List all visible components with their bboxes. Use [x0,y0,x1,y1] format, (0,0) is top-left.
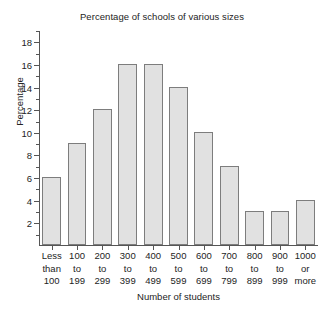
x-tick-label-line: 200 [90,250,115,263]
x-tick-label-line: 499 [140,275,165,288]
bar [296,200,315,245]
x-tick-label-line: to [217,263,242,276]
x-tick-label: 500to599 [166,250,191,288]
y-tick-label: 6 [27,173,32,184]
x-tick-label: 1000ormore [293,250,318,288]
x-tick-label-line: 700 [217,250,242,263]
x-tick-label-line: 1000 [293,250,318,263]
x-tick-label-line: 699 [191,275,216,288]
x-tick-label-line: to [242,263,267,276]
y-tick-label: 4 [27,195,32,206]
x-tick-label: 200to299 [90,250,115,288]
x-tick-label-line: Less [39,250,64,263]
x-tick-label-line: more [293,275,318,288]
x-tick-label-line: 199 [64,275,89,288]
y-tick-label: 18 [21,37,32,48]
x-tick-label-line: to [115,263,140,276]
x-tick-label-line: 100 [64,250,89,263]
x-tick-label-line: 500 [166,250,191,263]
x-tick-label: 800to899 [242,250,267,288]
x-tick-label: 400to499 [140,250,165,288]
bar [169,87,188,245]
x-tick-label-line: to [191,263,216,276]
x-tick-label-line: to [166,263,191,276]
x-tick-label-line: 399 [115,275,140,288]
x-tick-label-line: 800 [242,250,267,263]
plot-area: 24681012141618 [39,31,318,246]
bar [220,166,239,245]
x-tick-label-line: 600 [191,250,216,263]
x-tick-label-line: 899 [242,275,267,288]
x-axis-title: Number of students [39,291,318,302]
bars-layer [39,31,318,246]
bar [118,64,137,245]
x-tick-label-line: 300 [115,250,140,263]
x-tick-label-line: 599 [166,275,191,288]
y-tick-label: 12 [21,105,32,116]
x-axis-tick-labels: Lessthan100100to199200to299300to399400to… [39,250,318,292]
x-tick-label: 100to199 [64,250,89,288]
bar [93,109,112,245]
y-tick-label: 2 [27,218,32,229]
x-tick-label: 300to399 [115,250,140,288]
x-tick-label-line: than [39,263,64,276]
x-tick-label-line: to [140,263,165,276]
chart-title: Percentage of schools of various sizes [0,11,324,22]
x-tick-label: 900to999 [267,250,292,288]
x-tick-label-line: 900 [267,250,292,263]
x-tick-label-line: to [64,263,89,276]
y-tick-label: 10 [21,127,32,138]
x-tick-label-line: to [267,263,292,276]
bar [271,211,290,245]
x-tick-label-line: 999 [267,275,292,288]
bar [144,64,163,245]
bar-chart: Percentage of schools of various sizes P… [0,0,324,312]
x-tick-label-line: 299 [90,275,115,288]
y-tick-label: 14 [21,82,32,93]
y-tick-label: 8 [27,150,32,161]
x-tick-label-line: 100 [39,275,64,288]
bar [194,132,213,245]
bar [68,143,87,245]
x-tick-label: 600to699 [191,250,216,288]
bar [245,211,264,245]
x-tick-label: 700to799 [217,250,242,288]
y-tick-label: 16 [21,59,32,70]
x-tick-label-line: or [293,263,318,276]
x-tick-label-line: 799 [217,275,242,288]
x-tick-label: Lessthan100 [39,250,64,288]
bar [42,177,61,245]
x-tick-label-line: 400 [140,250,165,263]
x-tick-label-line: to [90,263,115,276]
